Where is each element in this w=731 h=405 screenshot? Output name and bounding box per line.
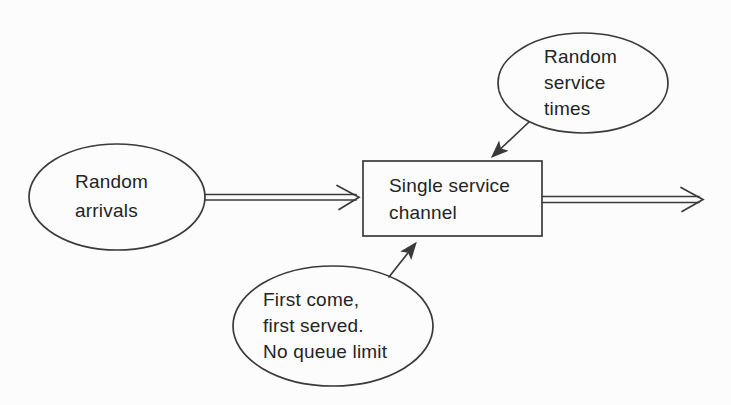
label-line: first served. xyxy=(263,313,387,339)
single-service-channel-label: Single service channel xyxy=(389,172,510,226)
open-arrowhead xyxy=(681,188,703,212)
label-line: times xyxy=(544,96,617,122)
label-line: Random xyxy=(75,167,148,196)
queueing-model-diagram: Random arrivals Single service channel R… xyxy=(0,0,731,405)
label-line: Single service xyxy=(389,172,510,199)
label-line: service xyxy=(544,70,617,96)
channel-to-exit-arrow xyxy=(542,188,703,212)
label-line: Random xyxy=(544,44,617,70)
fcfs-to-channel-arrow xyxy=(389,244,415,277)
random-arrivals-label: Random arrivals xyxy=(75,167,148,225)
open-arrowhead xyxy=(337,186,359,210)
label-line: arrivals xyxy=(75,196,148,225)
first-come-first-served-label: First come, first served. No queue limit xyxy=(263,287,387,365)
label-line: First come, xyxy=(263,287,387,313)
random-service-times-label: Random service times xyxy=(544,44,617,122)
arrivals-to-channel-arrow xyxy=(205,186,359,210)
label-line: channel xyxy=(389,199,510,226)
label-line: No queue limit xyxy=(263,339,387,365)
service-times-to-channel-arrow xyxy=(493,122,529,156)
